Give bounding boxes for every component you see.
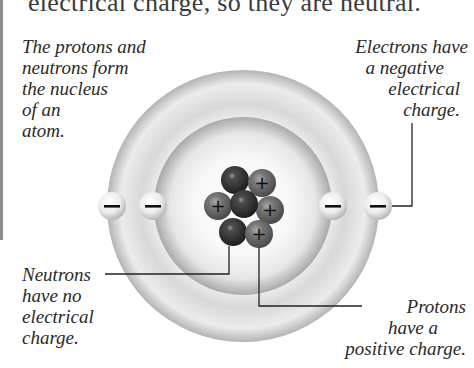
caption-line: have no [22, 285, 94, 306]
svg-text:+: + [210, 195, 225, 216]
caption-line: charge. [355, 99, 468, 120]
caption-line: Electrons have [355, 36, 468, 57]
caption-line: electrical [22, 306, 94, 327]
caption-line: Protons [345, 296, 466, 317]
protons-caption: Protons have a positive charge. [345, 296, 466, 359]
electron-particle [364, 192, 392, 220]
caption-line: have a [345, 317, 466, 338]
caption-line: neutrons form [22, 57, 146, 78]
neutrons-caption: Neutrons have no electrical charge. [22, 264, 94, 348]
proton-particle: + [245, 220, 273, 248]
caption-line: charge. [22, 327, 94, 348]
electron-particle [139, 192, 167, 220]
electrons-caption: Electrons have a negative electrical cha… [355, 36, 468, 120]
electron-leader-line [392, 123, 412, 206]
neutron-particle [221, 166, 249, 194]
caption-line: electrical [355, 78, 468, 99]
svg-text:+: + [254, 172, 269, 193]
neutron-particle [219, 218, 247, 246]
caption-line: of an [22, 99, 146, 120]
caption-line: The protons and [22, 36, 146, 57]
caption-line: the nucleus [22, 78, 146, 99]
neutron-particle [230, 190, 258, 218]
caption-line: Neutrons [22, 264, 94, 285]
electron-particle [98, 192, 126, 220]
svg-text:+: + [251, 223, 266, 244]
electron-particle [319, 192, 347, 220]
caption-line: positive charge. [345, 338, 466, 359]
proton-particle: + [256, 196, 284, 224]
svg-text:+: + [262, 199, 277, 220]
caption-line: atom. [22, 120, 146, 141]
nucleus-caption: The protons and neutrons form the nucleu… [22, 36, 146, 141]
proton-particle: + [204, 192, 232, 220]
caption-line: a negative [355, 57, 468, 78]
